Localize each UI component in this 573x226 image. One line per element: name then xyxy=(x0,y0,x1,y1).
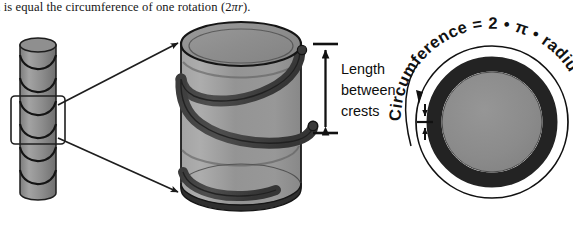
figure-root: h is equal the circumference of one rota… xyxy=(0,0,573,226)
core-disc xyxy=(442,72,542,172)
crest-label-line-1: Length xyxy=(341,59,413,80)
diagram-canvas xyxy=(0,0,573,226)
helix-anchor-bottom xyxy=(308,121,317,130)
helix-anchor-top xyxy=(297,45,306,54)
crest-length-label: Length between crests xyxy=(341,59,413,122)
callout-arrow-top xyxy=(58,43,178,105)
crest-label-line-3: crests xyxy=(341,101,413,122)
circle-cross-section xyxy=(406,46,568,198)
crest-dimension xyxy=(313,44,338,133)
circumference-leader-arrowhead xyxy=(416,90,423,104)
large-cylinder xyxy=(181,22,318,211)
callout-arrow-bottom xyxy=(58,138,178,192)
callout-arrows xyxy=(58,43,178,192)
crest-label-line-2: between xyxy=(341,80,413,101)
rod-top-cap xyxy=(20,38,56,52)
threaded-rod xyxy=(11,38,65,200)
